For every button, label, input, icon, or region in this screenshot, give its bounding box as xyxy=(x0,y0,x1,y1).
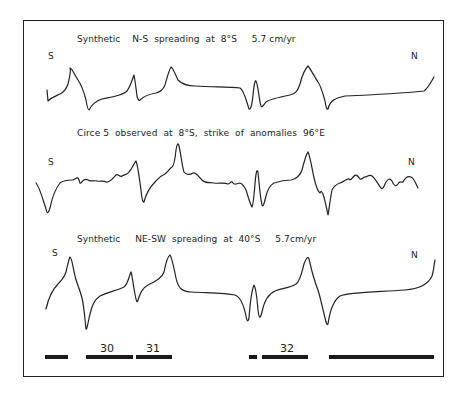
anomaly-bar-1 xyxy=(45,355,68,359)
profile-3-curve xyxy=(46,255,435,329)
profile-1-curve xyxy=(47,66,434,110)
anomaly-bar-6 xyxy=(329,355,434,359)
profile-2-curve xyxy=(36,144,418,215)
anomaly-bar-4 xyxy=(249,355,257,359)
anomaly-bar-30 xyxy=(86,355,133,359)
anomaly-bar-31 xyxy=(136,355,172,359)
magnetic-anomaly-profiles xyxy=(0,0,465,398)
anomaly-bar-32 xyxy=(262,355,308,359)
anomaly-label-32: 32 xyxy=(280,342,294,355)
anomaly-label-31: 31 xyxy=(146,342,160,355)
anomaly-label-30: 30 xyxy=(100,342,114,355)
